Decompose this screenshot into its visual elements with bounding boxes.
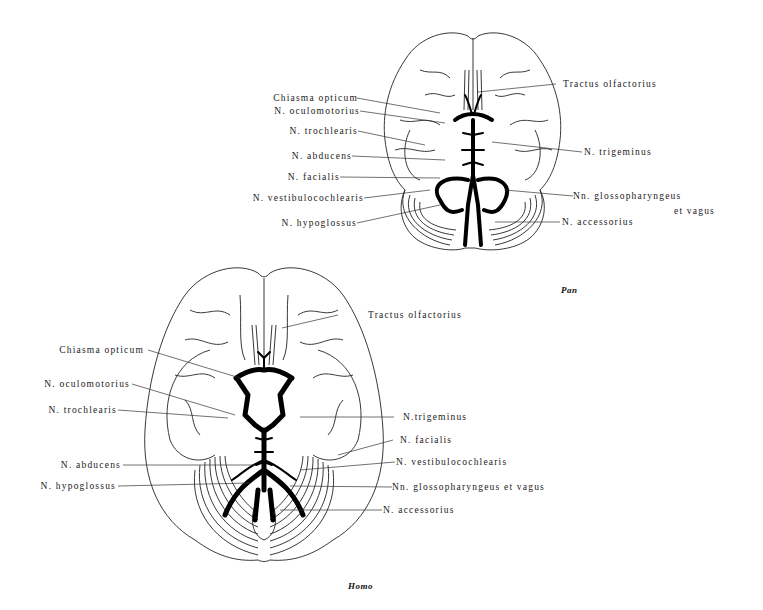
homo-leader-lines [118, 315, 395, 510]
homo-caption: Homo [348, 581, 373, 591]
homo-label-vestibulocochlearis: N. vestibulocochlearis [396, 457, 507, 468]
pan-label-trigeminus: N. trigeminus [584, 147, 652, 158]
homo-label-trochlearis: N. trochlearis [48, 405, 117, 416]
homo-label-hypoglossus: N. hypoglossus [41, 481, 116, 492]
homo-label-trigeminus: N.trigeminus [403, 412, 467, 423]
brain-diagram [0, 0, 763, 610]
homo-label-glossopharyngeus: Nn. glossopharyngeus et vagus [392, 482, 545, 493]
pan-caption: Pan [561, 285, 578, 295]
pan-leader-lines [340, 84, 582, 223]
homo-label-chiasma-opticum: Chiasma opticum [59, 345, 144, 356]
pan-label-accessorius: N. accessorius [562, 217, 634, 228]
pan-label-vestibulocochlearis: N. vestibulocochlearis [253, 193, 364, 204]
pan-label-tractus-olfactorius: Tractus olfactorius [563, 79, 657, 90]
homo-label-oculomotorius: N. oculomotorius [44, 379, 130, 390]
homo-label-accessorius: N. accessorius [383, 505, 455, 516]
pan-label-facialis: N. facialis [288, 172, 340, 183]
pan-label-hypoglossus: N. hypoglossus [282, 218, 357, 229]
pan-label-glossopharyngeus-cont: et vagus [674, 206, 715, 217]
pan-label-chiasma-opticum: Chiasma opticum [273, 93, 358, 104]
homo-label-facialis: N. facialis [400, 435, 452, 446]
pan-label-trochlearis: N. trochlearis [289, 126, 358, 137]
homo-label-abducens: N. abducens [61, 460, 121, 471]
pan-label-glossopharyngeus: Nn. glossopharyngeus [573, 191, 681, 202]
pan-arteries [437, 114, 507, 245]
homo-arteries [225, 369, 303, 520]
pan-label-oculomotorius: N. oculomotorius [274, 106, 360, 117]
homo-label-tractus-olfactorius: Tractus olfactorius [368, 310, 462, 321]
pan-label-abducens: N. abducens [292, 151, 352, 162]
